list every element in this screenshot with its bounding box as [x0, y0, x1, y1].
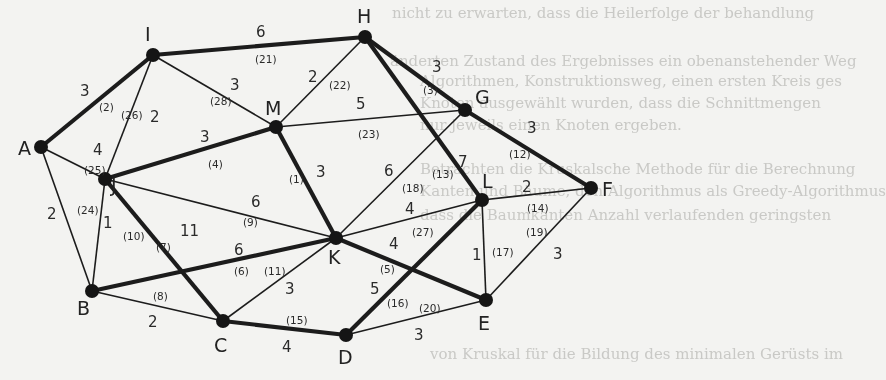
node-M [269, 120, 283, 134]
edge-order-label: (18) [402, 182, 424, 194]
edge-order-label: (20) [419, 302, 441, 314]
edge-order-label: (1) [289, 173, 304, 185]
edge-M-H [276, 37, 365, 127]
edge-order-label: (4) [208, 158, 223, 170]
node-label-I: I [145, 23, 151, 45]
edge-L-E [482, 200, 486, 300]
edge-order-label: (19) [526, 226, 548, 238]
edge-weight-label: 5 [356, 95, 366, 113]
edge-I-M [153, 55, 276, 127]
node-label-A: A [18, 137, 31, 159]
node-L [475, 193, 489, 207]
edge-L-D [346, 200, 482, 335]
edge-order-label: (15) [286, 314, 308, 326]
edge-order-label: (16) [387, 297, 409, 309]
edge-J-B [92, 179, 105, 291]
edge-weight-label: 2 [522, 178, 532, 196]
edge-weight-label: 3 [316, 163, 326, 181]
edge-weight-label: 1 [103, 214, 113, 232]
edge-order-label: (25) [84, 164, 106, 176]
node-label-B: B [77, 297, 90, 319]
edge-M-G [276, 110, 465, 127]
edge-order-label: (22) [329, 79, 351, 91]
node-F [584, 181, 598, 195]
edge-weight-label: 3 [200, 128, 210, 146]
label-layer: 3(1)3(2)3(3)3(4)4(5)6(6)11(7)2(8)6(9)1(1… [18, 5, 613, 368]
edge-order-label: (6) [234, 265, 249, 277]
edge-weight-label: 6 [251, 193, 261, 211]
edge-order-label: (14) [527, 202, 549, 214]
edge-weight-label: 7 [458, 153, 468, 171]
edge-order-label: (28) [210, 95, 232, 107]
edge-J-M [105, 127, 276, 179]
node-label-K: K [328, 246, 341, 268]
edge-order-label: (7) [156, 241, 171, 253]
edge-order-label: (27) [412, 226, 434, 238]
edge-weight-label: 3 [527, 119, 537, 137]
edge-order-label: (3) [423, 84, 438, 96]
edge-order-label: (13) [432, 168, 454, 180]
node-label-C: C [214, 334, 227, 356]
edge-weight-label: 1 [472, 246, 482, 264]
edge-order-label: (10) [123, 230, 145, 242]
edge-weight-label: 6 [384, 162, 394, 180]
edge-H-L [365, 37, 482, 200]
edge-K-M [276, 127, 336, 238]
edge-order-label: (21) [255, 53, 277, 65]
node-H [358, 30, 372, 44]
edge-weight-label: 4 [282, 338, 292, 356]
edge-weight-label: 5 [370, 280, 380, 298]
edge-order-label: (24) [77, 204, 99, 216]
node-label-M: M [265, 97, 281, 119]
edge-A-I [41, 55, 153, 147]
edge-order-label: (11) [264, 265, 286, 277]
edge-weight-label: 4 [389, 235, 399, 253]
edge-L-F [482, 188, 591, 200]
edge-weight-label: 4 [93, 141, 103, 159]
edge-weight-label: 11 [180, 222, 199, 240]
node-K [329, 231, 343, 245]
node-label-F: F [602, 178, 613, 200]
edge-order-label: (8) [153, 290, 168, 302]
edge-weight-label: 3 [80, 82, 90, 100]
edge-order-label: (12) [509, 148, 531, 160]
node-label-H: H [357, 5, 371, 27]
edge-weight-label: 6 [234, 241, 244, 259]
node-A [34, 140, 48, 154]
edge-order-label: (23) [358, 128, 380, 140]
edge-weight-label: 2 [308, 68, 318, 86]
edge-order-label: (2) [99, 101, 114, 113]
edge-weight-label: 3 [285, 280, 295, 298]
node-B [85, 284, 99, 298]
node-label-D: D [338, 346, 353, 368]
edge-weight-label: 3 [230, 76, 240, 94]
node-I [146, 48, 160, 62]
edge-weight-label: 2 [47, 205, 57, 223]
node-G [458, 103, 472, 117]
node-label-J: J [110, 174, 117, 196]
node-label-L: L [482, 170, 493, 192]
edge-weight-label: 3 [553, 245, 563, 263]
edge-weight-label: 4 [405, 200, 415, 218]
edge-weight-label: 3 [432, 58, 442, 76]
edge-weight-label: 3 [414, 326, 424, 344]
edge-order-label: (5) [380, 263, 395, 275]
edge-order-label: (9) [243, 216, 258, 228]
edge-C-D [223, 321, 346, 335]
node-E [479, 293, 493, 307]
edge-weight-label: 6 [256, 23, 266, 41]
edge-weight-label: 2 [148, 313, 158, 331]
edge-order-label: (17) [492, 246, 514, 258]
edge-order-label: (26) [121, 109, 143, 121]
node-label-E: E [478, 312, 490, 334]
node-D [339, 328, 353, 342]
node-C [216, 314, 230, 328]
edge-weight-label: 2 [150, 108, 160, 126]
node-label-G: G [475, 86, 490, 108]
edge-H-G [365, 37, 465, 110]
